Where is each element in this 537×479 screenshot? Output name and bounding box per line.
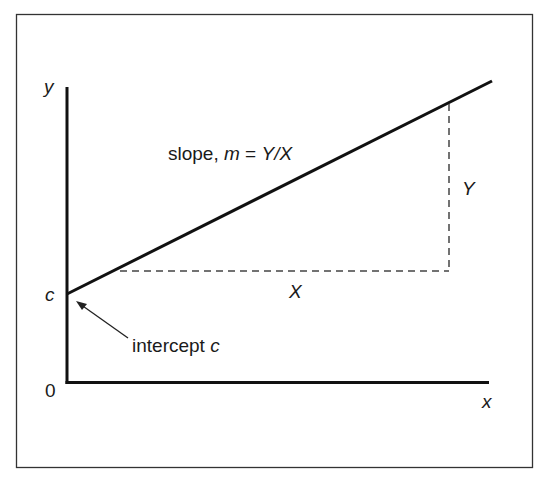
intercept-axis-label: c xyxy=(45,284,55,305)
slope-equals: = xyxy=(240,143,262,164)
intercept-annotation: intercept c xyxy=(132,335,220,356)
intercept-annotation-prefix: intercept xyxy=(132,335,210,356)
diagram-frame xyxy=(17,15,533,468)
slope-label-prefix: slope, xyxy=(168,143,224,164)
slope-intercept-diagram: y x 0 c slope, m = Y/X Y X intercept c xyxy=(0,0,537,479)
slope-symbol: m xyxy=(224,143,240,164)
slope-label: slope, m = Y/X xyxy=(168,143,293,164)
run-label: X xyxy=(288,281,303,302)
y-axis-label: y xyxy=(42,76,55,97)
slope-formula: Y/X xyxy=(261,143,293,164)
x-axis-label: x xyxy=(481,391,493,412)
origin-label: 0 xyxy=(45,380,56,401)
rise-label: Y xyxy=(462,178,476,199)
intercept-annotation-symbol: c xyxy=(210,335,220,356)
